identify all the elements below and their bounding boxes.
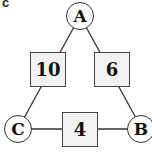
- edge-weight-a-b: 6: [94, 52, 130, 87]
- node-b: B: [127, 115, 152, 143]
- edge-weight-a-c: 10: [30, 52, 66, 87]
- node-a: A: [66, 2, 94, 30]
- node-c: C: [4, 115, 32, 143]
- panel-label: c: [2, 0, 9, 10]
- edge-weight-c-b: 4: [62, 112, 98, 147]
